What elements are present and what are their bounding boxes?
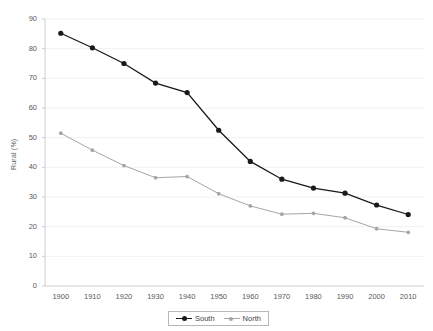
data-point-north	[406, 230, 410, 234]
data-point-north	[122, 164, 126, 168]
data-point-north	[154, 176, 158, 180]
data-point-north	[375, 227, 379, 231]
data-point-north	[312, 211, 316, 215]
y-axis-tick-label: 70	[15, 73, 37, 82]
data-point-north	[343, 216, 347, 220]
y-axis-tick-label: 40	[15, 162, 37, 171]
y-axis-tick-label: 10	[15, 251, 37, 260]
legend-label: North	[243, 314, 261, 323]
data-point-north	[280, 212, 284, 216]
y-axis-tick-label: 20	[15, 222, 37, 231]
y-axis-tick-label: 90	[15, 14, 37, 23]
data-point-south	[58, 31, 63, 36]
data-point-north	[185, 175, 189, 179]
data-point-south	[342, 191, 347, 196]
legend-label: South	[195, 314, 215, 323]
data-point-south	[406, 212, 411, 217]
y-axis-tick-label: 60	[15, 103, 37, 112]
y-axis-tick-label: 50	[15, 133, 37, 142]
series-line-south	[61, 33, 408, 214]
data-point-south	[90, 45, 95, 50]
data-point-south	[279, 177, 284, 182]
y-axis-tick-label: 30	[15, 192, 37, 201]
y-axis-tick-label: 0	[15, 281, 37, 290]
chart-legend: SouthNorth	[168, 311, 269, 326]
legend-marker-icon	[176, 315, 192, 322]
data-point-north	[59, 131, 63, 135]
data-point-north	[248, 204, 252, 208]
x-axis-tick-label: 2010	[388, 292, 428, 301]
legend-item-south[interactable]: South	[176, 314, 215, 323]
plot-area	[0, 0, 433, 331]
data-point-south	[216, 128, 221, 133]
data-point-north	[90, 148, 94, 152]
data-point-south	[248, 159, 253, 164]
legend-item-north[interactable]: North	[224, 314, 261, 323]
y-axis-tick-label: 80	[15, 44, 37, 53]
legend-marker-icon	[224, 315, 240, 322]
data-point-north	[217, 192, 221, 196]
data-point-south	[121, 61, 126, 66]
series-line-north	[61, 133, 408, 232]
data-point-south	[311, 186, 316, 191]
data-point-south	[153, 80, 158, 85]
data-point-south	[185, 90, 190, 95]
data-point-south	[374, 202, 379, 207]
chart-container: Rural (%) 0102030405060708090 1900191019…	[0, 0, 433, 331]
